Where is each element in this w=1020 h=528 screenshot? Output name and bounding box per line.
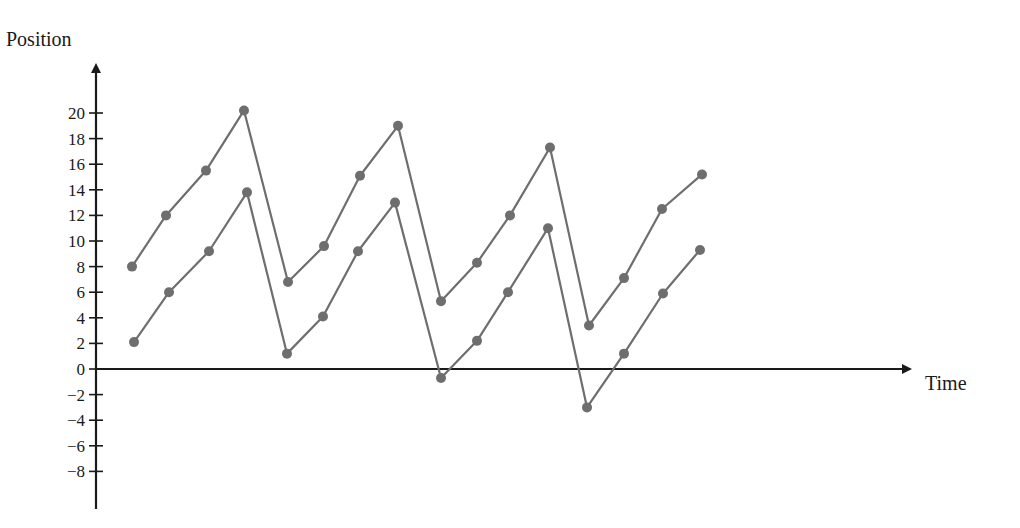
- y-tick-label: 10: [68, 232, 85, 251]
- data-point: [355, 171, 365, 181]
- y-tick-label: −8: [67, 462, 85, 481]
- data-point: [282, 349, 292, 359]
- data-point: [505, 210, 515, 220]
- y-tick-label: 18: [68, 130, 85, 149]
- data-point: [657, 204, 667, 214]
- y-tick-label: 4: [77, 309, 86, 328]
- data-point: [543, 223, 553, 233]
- data-point: [436, 373, 446, 383]
- data-point: [164, 287, 174, 297]
- axes: [96, 68, 907, 509]
- data-point: [161, 210, 171, 220]
- data-point: [436, 296, 446, 306]
- data-point: [319, 241, 329, 251]
- y-tick-label: 20: [68, 104, 85, 123]
- y-ticks: 20181614121086420−2−4−6−8: [67, 104, 103, 481]
- data-point: [239, 105, 249, 115]
- data-point: [353, 246, 363, 256]
- position-time-chart: Position Time 20181614121086420−2−4−6−8: [0, 0, 1020, 528]
- data-point: [283, 277, 293, 287]
- data-point: [658, 288, 668, 298]
- data-point: [619, 273, 629, 283]
- data-point: [584, 320, 594, 330]
- data-point: [619, 349, 629, 359]
- data-point: [393, 121, 403, 131]
- data-point: [472, 336, 482, 346]
- data-point: [545, 143, 555, 153]
- y-axis-label: Position: [6, 28, 72, 50]
- y-tick-label: 12: [68, 206, 85, 225]
- data-point: [242, 187, 252, 197]
- y-tick-label: 16: [68, 155, 85, 174]
- y-tick-label: −6: [67, 437, 85, 456]
- y-tick-label: −4: [67, 411, 86, 430]
- y-tick-label: 2: [77, 334, 86, 353]
- data-point: [390, 198, 400, 208]
- data-point: [697, 169, 707, 179]
- data-point: [204, 246, 214, 256]
- data-point: [201, 166, 211, 176]
- y-tick-label: 14: [68, 181, 86, 200]
- x-axis-label: Time: [925, 372, 967, 394]
- data-point: [129, 337, 139, 347]
- y-tick-label: 0: [77, 360, 86, 379]
- series-layer: [127, 105, 707, 412]
- data-point: [127, 262, 137, 272]
- y-tick-label: 6: [77, 283, 86, 302]
- y-tick-label: −2: [67, 386, 85, 405]
- series-line-lower: [134, 192, 700, 407]
- series-line-upper: [132, 110, 702, 325]
- y-tick-label: 8: [77, 258, 86, 277]
- data-point: [318, 312, 328, 322]
- data-point: [582, 402, 592, 412]
- data-point: [503, 287, 513, 297]
- data-point: [695, 245, 705, 255]
- data-point: [472, 258, 482, 268]
